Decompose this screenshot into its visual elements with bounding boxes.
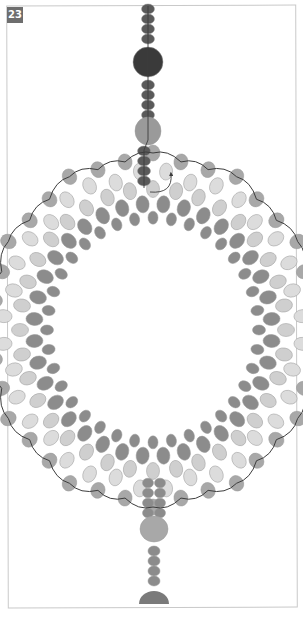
ring-bead	[92, 419, 107, 435]
ring-bead	[258, 391, 279, 411]
ring-bead	[263, 312, 281, 326]
ring-bead	[93, 434, 112, 455]
ring-bead	[182, 173, 199, 193]
ring-bead	[244, 211, 265, 232]
ring-bead	[64, 250, 80, 266]
ring-bead	[175, 442, 192, 462]
ring-bead	[302, 292, 303, 309]
ring-bead	[253, 325, 266, 335]
ring-bead	[293, 337, 303, 351]
ring-bead	[240, 392, 261, 412]
ring-bead	[226, 250, 242, 266]
ring-bead	[250, 267, 271, 286]
ring-bead	[250, 304, 265, 316]
ring-bead	[40, 410, 61, 431]
ring-bead	[41, 304, 56, 316]
ring-bead	[263, 334, 281, 348]
ring-bead	[13, 298, 32, 314]
dangle-seed-bead	[143, 478, 154, 488]
ring-bead	[148, 436, 158, 449]
ring-bead	[40, 229, 61, 250]
ring-bead	[28, 354, 48, 371]
ring-bead	[182, 428, 196, 444]
ring-bead	[244, 229, 265, 250]
ring-bead	[35, 267, 56, 286]
ring-bead	[46, 285, 62, 299]
ring-bead	[135, 195, 149, 213]
ring-bead	[57, 427, 78, 448]
ring-bead	[278, 388, 299, 407]
ring-bead	[244, 427, 265, 448]
ring-bead	[7, 388, 28, 407]
ring-bead	[75, 423, 95, 444]
ring-bead	[213, 236, 229, 252]
ring-bead	[168, 182, 184, 201]
ring-bead	[240, 247, 261, 267]
ring-bead	[93, 205, 112, 226]
ring-bead	[122, 182, 138, 201]
ring-bead	[156, 447, 170, 465]
ring-bead	[28, 289, 48, 306]
ring-bead	[0, 309, 13, 323]
ring-bead	[229, 189, 249, 210]
ring-bead	[77, 236, 93, 252]
ring-bead	[4, 282, 24, 299]
dangle-seed-bead	[148, 566, 160, 576]
ring-bead	[77, 441, 97, 462]
ring-bead	[58, 230, 79, 251]
ring-bead	[237, 266, 253, 281]
ring-bead	[265, 411, 286, 431]
ring-bead	[27, 250, 48, 270]
ring-bead	[282, 361, 302, 378]
ring-bead	[0, 292, 4, 309]
ring-bead	[258, 354, 278, 371]
ring-bead	[114, 198, 131, 218]
bottom-dangle-strand	[139, 478, 169, 604]
ring-bead	[250, 343, 265, 355]
ring-bead	[165, 433, 177, 448]
ring-bead	[293, 309, 303, 323]
ring-bead	[302, 351, 303, 368]
ring-bead	[156, 195, 170, 213]
ring-bead	[35, 374, 56, 393]
ring-bead	[207, 464, 226, 485]
ring-bead	[27, 391, 48, 411]
ring-bead	[129, 212, 141, 227]
ring-bead	[41, 211, 62, 232]
ring-bead	[57, 211, 78, 232]
ring-bead	[0, 408, 19, 428]
ring-bead	[0, 231, 19, 251]
ring-bead	[274, 298, 293, 314]
dangle-seed-bead	[148, 546, 160, 556]
beading-diagram	[0, 0, 303, 622]
ring-bead	[274, 347, 293, 363]
ring-bead	[41, 427, 62, 448]
ring-bead	[207, 175, 226, 196]
ring-bead	[25, 312, 43, 326]
ring-bead	[194, 205, 213, 226]
ring-bead	[278, 324, 295, 337]
ring-bead	[19, 229, 40, 249]
ring-bead	[13, 347, 32, 363]
ring-bead	[198, 419, 213, 435]
ring-bead	[165, 212, 177, 227]
ring-bead	[107, 173, 124, 193]
ring-bead	[4, 361, 24, 378]
ring-bead	[182, 217, 196, 233]
ring-bead	[194, 434, 213, 455]
ring-bead	[45, 392, 66, 412]
ring-bead	[53, 379, 69, 394]
ring-bead	[75, 216, 95, 237]
ring-bead	[129, 433, 141, 448]
ring-bead	[77, 408, 93, 424]
ring-bead	[58, 409, 79, 430]
ring-bead	[244, 410, 265, 431]
large-gray-bead	[140, 516, 168, 542]
ring-bead	[107, 468, 124, 488]
ring-bead	[45, 247, 66, 267]
ring-bead	[135, 447, 149, 465]
ring-bead	[265, 229, 286, 249]
ring-bead	[7, 253, 28, 272]
dangle-seed-bead	[148, 556, 160, 566]
dangle-seed-bead	[148, 576, 160, 586]
